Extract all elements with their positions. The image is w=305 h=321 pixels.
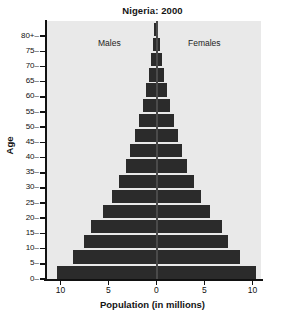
bar-male-60-64 xyxy=(146,83,157,96)
x-axis-title: Population (in millions) xyxy=(0,299,305,310)
y-tick-40 xyxy=(40,157,46,159)
bar-male-15-19 xyxy=(91,220,156,233)
bar-row xyxy=(46,220,261,233)
y-tick-label-65: 65– xyxy=(26,76,39,85)
bar-row xyxy=(46,114,261,127)
bar-female-10-14 xyxy=(156,235,228,248)
bar-female-20-24 xyxy=(156,205,210,218)
bar-male-35-39 xyxy=(126,159,157,172)
bar-female-45-49 xyxy=(156,129,177,142)
y-tick-label-75: 75– xyxy=(26,46,39,55)
bar-female-30-34 xyxy=(156,175,193,188)
bar-male-65-69 xyxy=(149,68,157,81)
bar-male-10-14 xyxy=(84,235,156,248)
x-tick-label-10-0: 10 xyxy=(47,285,73,295)
bar-male-40-44 xyxy=(130,144,156,157)
y-tick-55 xyxy=(40,111,46,113)
y-tick-0 xyxy=(40,278,46,280)
bar-female-0-4 xyxy=(156,266,256,279)
bar-row xyxy=(46,99,261,112)
y-tick-label-10: 10– xyxy=(26,243,39,252)
y-tick-label-50: 50– xyxy=(26,122,39,131)
y-tick-45 xyxy=(40,142,46,144)
bar-row xyxy=(46,235,261,248)
annotation-females: Females xyxy=(188,38,221,48)
chart-title: Nigeria: 2000 xyxy=(0,5,305,16)
y-tick-65 xyxy=(40,81,46,83)
y-tick-label-20: 20– xyxy=(26,213,39,222)
y-tick-75 xyxy=(40,51,46,53)
bar-male-5-9 xyxy=(73,250,157,263)
bar-male-20-24 xyxy=(103,205,157,218)
y-tick-25 xyxy=(40,202,46,204)
bar-female-60-64 xyxy=(156,83,167,96)
y-tick-label-40: 40– xyxy=(26,152,39,161)
y-tick-label-25: 25– xyxy=(26,198,39,207)
bar-female-15-19 xyxy=(156,220,221,233)
y-tick-label-80+: 80+– xyxy=(21,31,39,40)
y-tick-label-45: 45– xyxy=(26,137,39,146)
y-tick-10 xyxy=(40,248,46,250)
bar-male-25-29 xyxy=(112,190,156,203)
bar-female-25-29 xyxy=(156,190,200,203)
y-tick-label-35: 35– xyxy=(26,167,39,176)
y-tick-80+ xyxy=(40,35,46,37)
y-tick-5 xyxy=(40,263,46,265)
bar-row xyxy=(46,175,261,188)
bar-row xyxy=(46,144,261,157)
y-tick-label-15: 15– xyxy=(26,228,39,237)
bar-row xyxy=(46,53,261,66)
bar-row xyxy=(46,38,261,51)
bar-female-5-9 xyxy=(156,250,240,263)
plot-area xyxy=(46,21,261,279)
y-tick-label-60: 60– xyxy=(26,91,39,100)
bar-male-45-49 xyxy=(135,129,156,142)
y-tick-70 xyxy=(40,66,46,68)
y-tick-label-0: 0– xyxy=(30,274,39,283)
bar-row xyxy=(46,266,261,279)
bar-row xyxy=(46,129,261,142)
y-tick-label-5: 5– xyxy=(30,258,39,267)
bar-row xyxy=(46,23,261,36)
bar-row xyxy=(46,159,261,172)
bar-male-50-54 xyxy=(139,114,156,127)
bar-female-35-39 xyxy=(156,159,187,172)
x-axis-spine xyxy=(44,279,263,281)
y-tick-20 xyxy=(40,217,46,219)
y-tick-15 xyxy=(40,233,46,235)
y-tick-label-70: 70– xyxy=(26,61,39,70)
x-tick-label-5-3: 5 xyxy=(191,285,217,295)
bar-female-50-54 xyxy=(156,114,173,127)
x-tick-label-10-4: 10 xyxy=(239,285,265,295)
x-tick-label-0-2: 0 xyxy=(143,285,169,295)
bar-male-30-34 xyxy=(119,175,156,188)
y-tick-60 xyxy=(40,96,46,98)
y-tick-35 xyxy=(40,172,46,174)
bar-female-55-59 xyxy=(156,99,169,112)
y-axis-title: Age xyxy=(4,126,15,166)
bar-male-0-4 xyxy=(57,266,157,279)
bar-row xyxy=(46,190,261,203)
y-tick-50 xyxy=(40,126,46,128)
bar-row xyxy=(46,83,261,96)
bar-row xyxy=(46,68,261,81)
bar-row xyxy=(46,250,261,263)
y-tick-label-30: 30– xyxy=(26,182,39,191)
bar-male-55-59 xyxy=(143,99,156,112)
x-tick-label-5-1: 5 xyxy=(95,285,121,295)
bar-female-40-44 xyxy=(156,144,182,157)
y-tick-30 xyxy=(40,187,46,189)
y-tick-label-55: 55– xyxy=(26,107,39,116)
bar-row xyxy=(46,205,261,218)
annotation-males: Males xyxy=(98,38,121,48)
y-axis-spine xyxy=(45,20,47,280)
center-axis-line xyxy=(156,21,157,279)
population-pyramid-figure: Nigeria: 2000 0–5–10–15–20–25–30–35–40–4… xyxy=(0,0,305,321)
